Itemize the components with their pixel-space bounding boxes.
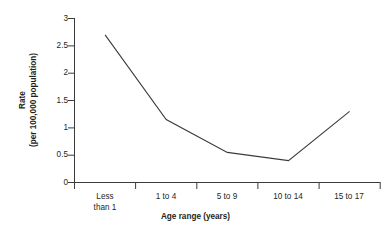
- x-axis-category-labels: Less than 1 1 to 4 5 to 9 10 to 14 15 to…: [0, 0, 391, 241]
- x-category-label: 10 to 14: [273, 192, 303, 203]
- x-category-label: 15 to 17: [334, 192, 364, 203]
- chart-figure: Rate (per 100,000 population) 3 2.5 2 1.…: [0, 0, 391, 241]
- x-category-label: Less than 1: [94, 192, 117, 213]
- x-category-label: 1 to 4: [156, 192, 177, 203]
- x-category-label-line: Less: [94, 192, 117, 203]
- x-category-label: 5 to 9: [217, 192, 238, 203]
- x-axis-title: Age range (years): [0, 212, 391, 221]
- x-category-label-line: 10 to 14: [273, 192, 303, 203]
- x-category-label-line: 5 to 9: [217, 192, 238, 203]
- x-category-label-line: 1 to 4: [156, 192, 177, 203]
- x-category-label-line: 15 to 17: [334, 192, 364, 203]
